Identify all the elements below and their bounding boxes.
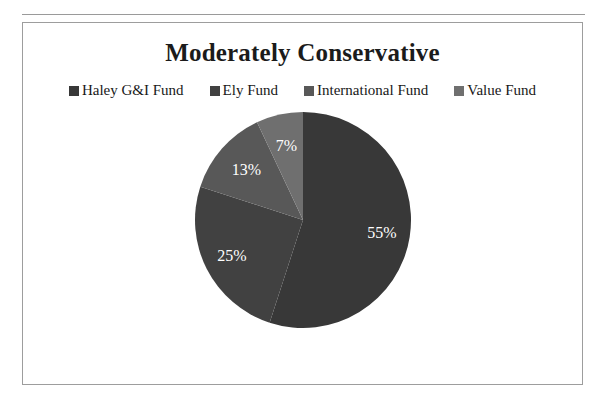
pie-slice-label: 55% (367, 224, 396, 241)
legend-item-label: Value Fund (467, 83, 536, 98)
chart-frame: Moderately Conservative Haley G&I FundEl… (22, 22, 583, 385)
legend-swatch-icon (210, 86, 220, 96)
legend-item[interactable]: Ely Fund (210, 83, 278, 98)
pie-slice-label: 7% (275, 137, 296, 154)
legend-item[interactable]: Value Fund (454, 83, 536, 98)
legend-item[interactable]: Haley G&I Fund (69, 83, 184, 98)
chart-title: Moderately Conservative (23, 39, 582, 67)
top-horizontal-rule (22, 14, 585, 15)
pie-chart-area: 55%25%13%7% (23, 109, 582, 364)
legend-item-label: Haley G&I Fund (82, 83, 184, 98)
pie-chart-svg: 55%25%13%7% (188, 109, 418, 334)
legend-item-label: Ely Fund (223, 83, 278, 98)
legend-swatch-icon (69, 86, 79, 96)
legend-item-label: International Fund (317, 83, 428, 98)
legend-swatch-icon (304, 86, 314, 96)
legend-item[interactable]: International Fund (304, 83, 428, 98)
legend-swatch-icon (454, 86, 464, 96)
pie-slice-label: 13% (231, 161, 260, 178)
chart-legend: Haley G&I FundEly FundInternational Fund… (23, 83, 582, 98)
pie-slice-label: 25% (217, 247, 246, 264)
